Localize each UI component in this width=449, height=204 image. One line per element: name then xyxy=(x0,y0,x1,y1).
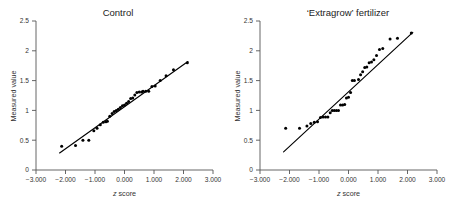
data-point xyxy=(359,73,362,76)
x-tick-marks xyxy=(36,170,213,174)
y-tick-label: 1 xyxy=(249,107,253,114)
x-tick-label: 3.000 xyxy=(429,176,446,183)
x-tick-marks xyxy=(260,170,437,174)
y-tick-label: 1 xyxy=(25,107,29,114)
y-tick-labels: 0 0.5 1 1.5 2 2.5 xyxy=(244,17,254,173)
data-point xyxy=(284,127,287,130)
data-point xyxy=(87,139,90,142)
x-tick-label: 3.000 xyxy=(205,176,222,183)
chart-panel-control: Control xyxy=(0,0,224,204)
y-tick-label: 0.5 xyxy=(244,137,253,144)
x-axis-title-rest: score xyxy=(341,189,361,198)
data-point xyxy=(329,111,332,114)
x-tick-label: −2.000 xyxy=(55,176,76,183)
y-tick-marks xyxy=(32,21,36,170)
x-axis-title-rest: score xyxy=(117,189,137,198)
data-point xyxy=(131,96,134,99)
x-tick-label: 2.000 xyxy=(399,176,416,183)
y-axis-title-extragrow: Measured value xyxy=(233,70,242,121)
data-point xyxy=(309,122,312,125)
data-point xyxy=(365,65,368,68)
x-tick-label: 2.000 xyxy=(175,176,192,183)
data-point xyxy=(396,37,399,40)
x-tick-label: 1.000 xyxy=(146,176,163,183)
x-tick-label: −3.000 xyxy=(250,176,271,183)
extragrow-plot-svg: ‘Extragrow’ fertilizer xyxy=(224,0,449,204)
extragrow-data-series xyxy=(284,31,413,129)
y-tick-label: 2.5 xyxy=(20,17,29,24)
x-tick-label: 0.000 xyxy=(116,176,133,183)
normal-probability-plots-figure: Control xyxy=(0,0,449,204)
chart-title-control: Control xyxy=(103,7,134,18)
x-tick-labels: −3.000 −2.000 −1.000 0.000 1.000 2.000 3… xyxy=(26,176,222,183)
data-point xyxy=(81,139,84,142)
data-point xyxy=(389,37,392,40)
data-point xyxy=(305,124,308,127)
data-point xyxy=(361,70,364,73)
x-tick-label: −2.000 xyxy=(279,176,300,183)
x-tick-label: −1.000 xyxy=(85,176,106,183)
chart-panel-extragrow: ‘Extragrow’ fertilizer xyxy=(224,0,449,204)
data-point xyxy=(298,127,301,130)
x-axis-title-extragrow: z score xyxy=(336,189,360,198)
y-tick-label: 0 xyxy=(25,166,29,173)
y-tick-labels: 0 0.5 1 1.5 2 2.5 xyxy=(20,17,30,173)
x-tick-label: 1.000 xyxy=(370,176,387,183)
data-point xyxy=(337,109,340,112)
data-point xyxy=(133,93,136,96)
data-point xyxy=(378,48,381,51)
data-point xyxy=(326,115,329,118)
x-axis-title-control: z score xyxy=(112,189,136,198)
control-axes: −3.000 −2.000 −1.000 0.000 1.000 2.000 3… xyxy=(20,17,222,183)
data-point xyxy=(347,96,350,99)
y-tick-label: 2.5 xyxy=(244,17,253,24)
y-axis-title-control: Measured value xyxy=(9,70,18,121)
extragrow-fit-line xyxy=(284,32,413,152)
control-fit-line xyxy=(60,62,188,153)
extragrow-axes: −3.000 −2.000 −1.000 0.000 1.000 2.000 3… xyxy=(244,17,446,183)
data-point xyxy=(357,78,360,81)
y-tick-label: 1.5 xyxy=(244,77,253,84)
data-point xyxy=(353,79,356,82)
y-tick-marks xyxy=(256,21,260,170)
data-point xyxy=(372,58,375,61)
x-tick-labels: −3.000 −2.000 −1.000 0.000 1.000 2.000 3… xyxy=(250,176,446,183)
y-tick-label: 0.5 xyxy=(20,137,29,144)
y-tick-label: 2 xyxy=(249,47,253,54)
data-point xyxy=(74,144,77,147)
chart-title-extragrow: ‘Extragrow’ fertilizer xyxy=(307,7,390,18)
data-point xyxy=(381,47,384,50)
control-plot-svg: Control xyxy=(0,0,224,204)
x-tick-label: −3.000 xyxy=(26,176,47,183)
data-point xyxy=(343,103,346,106)
data-point xyxy=(375,54,378,57)
y-tick-label: 0 xyxy=(249,166,253,173)
x-tick-label: −1.000 xyxy=(309,176,330,183)
y-tick-label: 1.5 xyxy=(20,77,29,84)
y-tick-label: 2 xyxy=(25,47,29,54)
data-point xyxy=(370,61,373,64)
x-tick-label: 0.000 xyxy=(340,176,357,183)
data-point xyxy=(60,145,63,148)
